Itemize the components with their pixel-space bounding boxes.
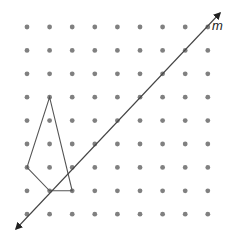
line-m-label: m — [212, 18, 223, 33]
grid-dot — [70, 25, 75, 30]
grid-dot — [92, 71, 97, 76]
grid-dot — [183, 142, 188, 147]
grid-dot — [47, 165, 52, 170]
grid-dot — [138, 71, 143, 76]
grid-dot — [138, 212, 143, 217]
grid-dot — [92, 25, 97, 30]
grid-dot — [160, 118, 165, 123]
grid-dot — [92, 188, 97, 193]
grid-dot — [92, 95, 97, 100]
grid-dot — [183, 95, 188, 100]
grid-dot — [115, 95, 120, 100]
grid-dot — [138, 188, 143, 193]
grid-dot — [25, 71, 30, 76]
grid-dot — [25, 48, 30, 53]
grid-dot — [205, 212, 210, 217]
grid-dot — [115, 142, 120, 147]
grid-dot — [92, 118, 97, 123]
grid-dot — [138, 25, 143, 30]
grid-dot — [205, 48, 210, 53]
grid-dot — [115, 188, 120, 193]
grid-dot — [183, 25, 188, 30]
grid-dot — [205, 165, 210, 170]
grid-dot — [115, 165, 120, 170]
grid-dot — [115, 212, 120, 217]
grid-dot — [25, 188, 30, 193]
grid-dot — [138, 165, 143, 170]
grid-dot — [183, 165, 188, 170]
dot-grid-diagram: m — [0, 0, 233, 244]
grid-dot — [183, 188, 188, 193]
grid-dot — [70, 95, 75, 100]
grid-dot — [138, 48, 143, 53]
grid-dot — [160, 48, 165, 53]
grid-dot — [160, 142, 165, 147]
grid-dot — [47, 118, 52, 123]
grid-dot — [70, 118, 75, 123]
grid-dot — [47, 48, 52, 53]
grid-dot — [138, 142, 143, 147]
grid-dot — [47, 142, 52, 147]
grid-dot — [138, 118, 143, 123]
grid-dot — [25, 118, 30, 123]
grid-dot — [205, 95, 210, 100]
grid-dot — [115, 25, 120, 30]
grid-dot — [25, 142, 30, 147]
grid-dot — [115, 48, 120, 53]
grid-dot — [205, 188, 210, 193]
grid-dot — [205, 142, 210, 147]
grid-dot — [47, 71, 52, 76]
grid-dot — [47, 25, 52, 30]
grid-dot — [92, 212, 97, 217]
grid-dot — [92, 48, 97, 53]
grid-dot — [115, 71, 120, 76]
grid-dot — [47, 212, 52, 217]
grid-dot — [70, 142, 75, 147]
grid-dot — [160, 165, 165, 170]
grid-dot — [160, 188, 165, 193]
grid-dot — [70, 212, 75, 217]
grid-dot — [25, 25, 30, 30]
grid-dot — [183, 212, 188, 217]
grid-dot — [205, 71, 210, 76]
line-m — [16, 13, 220, 229]
grid-dot — [205, 118, 210, 123]
grid-dot — [160, 95, 165, 100]
grid-dot — [160, 212, 165, 217]
grid-dot — [92, 165, 97, 170]
grid-dot — [25, 95, 30, 100]
grid-dot — [70, 48, 75, 53]
grid-dot — [183, 71, 188, 76]
grid-dot — [70, 71, 75, 76]
grid-dot — [183, 118, 188, 123]
grid-dot — [160, 25, 165, 30]
